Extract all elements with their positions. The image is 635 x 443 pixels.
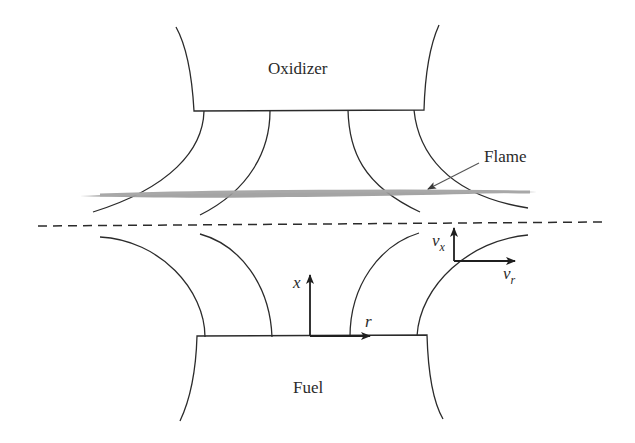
flame-sheet: [80, 190, 537, 198]
x-axis-label: x: [292, 273, 301, 292]
lower-streamlines: [100, 233, 528, 337]
stagnation-plane-dashed-line: [38, 222, 604, 226]
oxidizer-label: Oxidizer: [268, 59, 328, 78]
r-axis-label: r: [365, 312, 372, 331]
counterflow-flame-diagram: Oxidizer Flame Fuel x r vx vr: [0, 0, 635, 443]
upper-streamlines: [93, 110, 528, 215]
velocity-vectors: [454, 228, 515, 261]
vr-label-subscript: r: [511, 273, 516, 287]
flame-pointer-arrow: [428, 163, 479, 189]
fuel-label: Fuel: [293, 378, 324, 397]
vr-label: vr: [503, 264, 516, 287]
vx-label: vx: [432, 231, 446, 254]
flame-label: Flame: [484, 147, 527, 166]
vx-label-subscript: x: [439, 240, 446, 254]
